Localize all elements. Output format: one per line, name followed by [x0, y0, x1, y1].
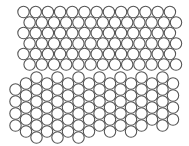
upper-circle — [170, 59, 181, 70]
lower-circle — [62, 126, 73, 137]
lower-circle — [73, 84, 84, 95]
upper-circle — [73, 38, 84, 49]
lower-circle — [104, 90, 115, 101]
lower-circle — [125, 78, 136, 89]
lower-circle — [83, 114, 94, 125]
lower-circle — [136, 96, 147, 107]
lower-circle — [146, 78, 157, 89]
upper-circle — [24, 17, 35, 28]
lower-circle — [73, 108, 84, 119]
upper-circle — [122, 59, 133, 70]
upper-circle — [18, 6, 29, 17]
upper-circle — [152, 6, 163, 17]
upper-circle — [128, 27, 139, 38]
upper-circle — [109, 17, 120, 28]
lower-circle — [104, 78, 115, 89]
lower-circle — [20, 126, 31, 137]
upper-circle — [170, 38, 181, 49]
upper-circle — [158, 59, 169, 70]
upper-circle — [97, 17, 108, 28]
lower-circle — [83, 78, 94, 89]
upper-circle — [48, 38, 59, 49]
lower-circle — [62, 90, 73, 101]
lower-circle — [31, 120, 42, 131]
upper-circle — [30, 6, 41, 17]
upper-circle — [36, 17, 47, 28]
upper-circle — [60, 38, 71, 49]
upper-circle — [97, 38, 108, 49]
lower-circle — [31, 72, 42, 83]
lower-circle — [83, 126, 94, 137]
lower-circle — [157, 84, 168, 95]
lower-circle — [41, 114, 52, 125]
lower-circle — [94, 108, 105, 119]
upper-circle — [115, 6, 126, 17]
upper-circle — [91, 48, 102, 59]
upper-circle — [158, 17, 169, 28]
lower-circle — [125, 102, 136, 113]
upper-circle — [115, 48, 126, 59]
lower-circle — [115, 108, 126, 119]
lower-circle — [157, 72, 168, 83]
upper-circle — [164, 6, 175, 17]
upper-circle — [48, 17, 59, 28]
upper-circle — [73, 59, 84, 70]
lower-circle — [146, 114, 157, 125]
upper-circle — [128, 48, 139, 59]
upper-circle — [91, 27, 102, 38]
upper-circle — [109, 59, 120, 70]
lower-circle — [157, 108, 168, 119]
upper-circle — [79, 48, 90, 59]
lower-circle — [73, 96, 84, 107]
upper-circle — [73, 17, 84, 28]
lower-circle — [52, 120, 63, 131]
lower-circle — [41, 102, 52, 113]
lower-circle — [41, 126, 52, 137]
lower-circle — [52, 84, 63, 95]
lower-circle — [125, 90, 136, 101]
lower-circle — [136, 72, 147, 83]
lower-circle — [62, 78, 73, 89]
lower-circle — [73, 132, 84, 143]
upper-circle — [140, 48, 151, 59]
upper-circle — [134, 38, 145, 49]
upper-circle — [152, 27, 163, 38]
lower-circle — [115, 96, 126, 107]
lower-circle — [115, 84, 126, 95]
upper-circle — [60, 17, 71, 28]
lower-circle — [20, 114, 31, 125]
lower-circle — [94, 120, 105, 131]
lower-circle — [62, 102, 73, 113]
upper-circle — [146, 59, 157, 70]
lower-circle — [83, 102, 94, 113]
upper-circle — [85, 38, 96, 49]
upper-circle — [79, 27, 90, 38]
lower-circle — [167, 102, 178, 113]
upper-circle — [85, 17, 96, 28]
upper-circle — [152, 48, 163, 59]
lower-circle — [10, 108, 21, 119]
lower-circle — [104, 126, 115, 137]
lower-circle — [146, 102, 157, 113]
lower-circle — [52, 132, 63, 143]
lower-circle — [41, 90, 52, 101]
upper-circle — [36, 38, 47, 49]
upper-circle — [91, 6, 102, 17]
lower-circle — [125, 126, 136, 137]
upper-circle — [24, 59, 35, 70]
lower-circle — [41, 78, 52, 89]
lower-circle — [20, 78, 31, 89]
lower-circle — [10, 120, 21, 131]
upper-circle — [134, 59, 145, 70]
upper-circle — [170, 17, 181, 28]
lower-circle — [62, 114, 73, 125]
upper-circle — [67, 27, 78, 38]
lower-circle — [157, 96, 168, 107]
lower-circle — [10, 96, 21, 107]
upper-circle — [42, 48, 53, 59]
lower-circle — [167, 78, 178, 89]
lower-circle — [136, 120, 147, 131]
lower-circle — [83, 90, 94, 101]
lower-circle — [94, 72, 105, 83]
upper-circle — [140, 6, 151, 17]
